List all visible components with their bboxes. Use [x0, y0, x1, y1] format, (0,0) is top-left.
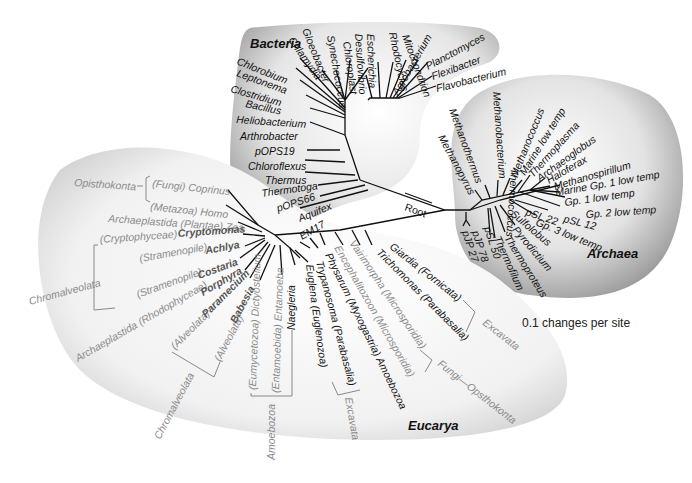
domain-label-eucarya: Eucarya: [408, 418, 459, 433]
svg-text:Amoebozoa: Amoebozoa: [265, 404, 277, 461]
svg-text:Escherichia: Escherichia: [365, 34, 379, 89]
scale-bar-label: 0.1 changes per site: [522, 316, 630, 330]
svg-text:Arthrobacter: Arthrobacter: [239, 130, 298, 142]
svg-text:pOPS19: pOPS19: [254, 145, 295, 157]
svg-text:Chloroflexus: Chloroflexus: [248, 160, 307, 172]
phylogenetic-tree: Bacteria Archaea Eucarya Root: [0, 0, 692, 483]
svg-text:Naegleria: Naegleria: [285, 285, 297, 330]
